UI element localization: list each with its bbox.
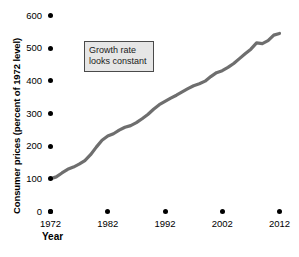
growth-rate-annotation: Growth rate looks constant [84, 41, 154, 72]
y-tick-label-400: 400 [12, 75, 42, 86]
y-tick-label-200: 200 [12, 140, 42, 151]
x-tick-label-1972: 1972 [31, 218, 71, 229]
y-tick-dot-500 [48, 46, 53, 51]
y-tick-dot-200 [48, 144, 53, 149]
x-tick-label-2002: 2002 [202, 218, 242, 229]
consumer-prices-line-chart: Consumer prices (percent of 1972 level) … [0, 0, 298, 257]
x-axis-title: Year [42, 231, 63, 242]
y-tick-label-600: 600 [12, 10, 42, 21]
x-tick-label-1992: 1992 [145, 218, 185, 229]
y-tick-label-500: 500 [12, 42, 42, 53]
annotation-line-2: looks constant [89, 56, 149, 67]
x-tick-label-2012: 2012 [260, 218, 299, 229]
y-tick-dot-300 [48, 111, 53, 116]
y-tick-dot-600 [48, 13, 53, 18]
x-tick-dot-1992 [163, 209, 168, 214]
x-tick-label-1982: 1982 [88, 218, 128, 229]
annotation-line-1: Growth rate [89, 45, 149, 56]
x-tick-dot-1972 [48, 209, 53, 214]
x-tick-dot-2002 [220, 209, 225, 214]
y-tick-label-0: 0 [12, 206, 42, 217]
y-tick-label-300: 300 [12, 108, 42, 119]
y-tick-label-100: 100 [12, 173, 42, 184]
x-tick-dot-2012 [277, 209, 282, 214]
